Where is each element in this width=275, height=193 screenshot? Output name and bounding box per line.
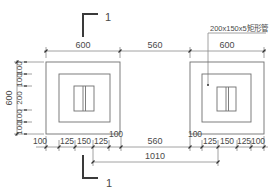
dim-bottom-right-2: 125 — [203, 136, 217, 146]
left-dimension: 600 100 100 200 100 100 — [4, 60, 44, 136]
section-mark-top: 1 — [83, 11, 111, 37]
dim-bottom-left-3: 150 — [77, 136, 91, 146]
dim-top-2: 560 — [147, 40, 162, 50]
dim-bottom-right-5: 100 — [251, 136, 265, 146]
footing-right — [190, 62, 264, 134]
column-right — [217, 87, 236, 111]
dim-left-overall: 600 — [4, 90, 14, 105]
member-callout-label: 200x150x5矩形管 — [210, 23, 269, 33]
top-dimension: 600 560 600 — [44, 40, 266, 58]
footing-left — [46, 62, 120, 134]
dim-bottom-left-5: 100 — [109, 129, 123, 139]
dim-bottom-right-1: 100 — [188, 129, 202, 139]
span-dimension: 1010 — [92, 151, 220, 164]
member-callout: 200x150x5矩形管 — [207, 23, 269, 86]
dim-top-1: 600 — [75, 40, 90, 50]
dim-bottom-right-3: 150 — [220, 136, 234, 146]
dim-left-sub-5: 100 — [15, 61, 24, 75]
dim-span: 1010 — [145, 151, 165, 161]
dim-bottom-left-2: 125 — [60, 136, 74, 146]
footing-right-outer — [190, 62, 264, 134]
column-left — [74, 86, 94, 111]
footing-right-inner — [202, 74, 251, 122]
section-label-top: 1 — [105, 11, 111, 23]
section-mark-bottom: 1 — [83, 155, 112, 189]
dim-left-sub-3: 200 — [15, 91, 24, 105]
drawing-canvas: 1 1 600 560 600 200x150x5矩形管 — [0, 0, 275, 193]
footing-left-inner — [59, 74, 110, 122]
dim-bottom-left-4: 125 — [94, 136, 108, 146]
dim-top-3: 600 — [219, 40, 234, 50]
dim-bottom-left-1: 100 — [33, 136, 47, 146]
dim-bottom-right-4: 125 — [237, 136, 251, 146]
dim-left-sub-2: 100 — [15, 109, 24, 123]
dim-bottom-middle: 560 — [147, 136, 162, 146]
section-label-bottom: 1 — [106, 177, 112, 189]
